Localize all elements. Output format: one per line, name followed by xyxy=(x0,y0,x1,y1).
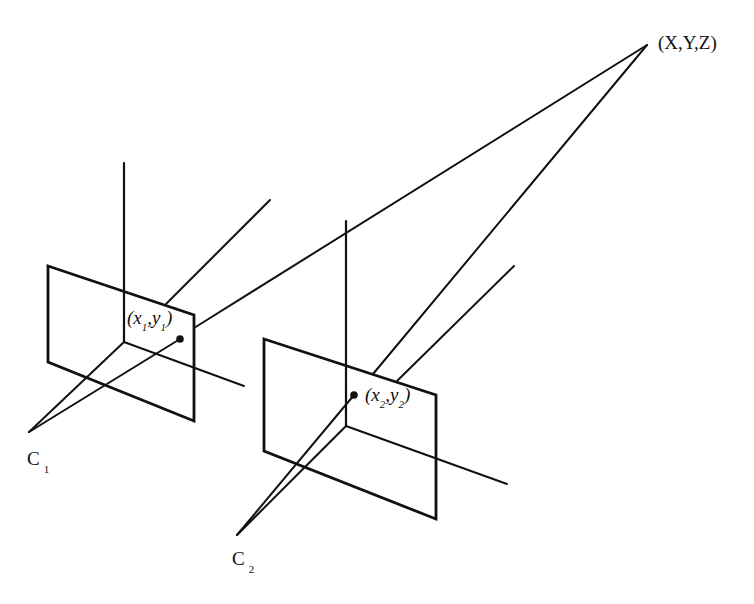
x-subscript: 1 xyxy=(142,321,148,333)
camera2-horizontal-axis xyxy=(346,426,507,484)
camera2-image-plane xyxy=(264,339,436,519)
ray-point1-to-world xyxy=(194,45,647,328)
y-subscript: 2 xyxy=(398,398,404,410)
camera2-ray-origin xyxy=(237,426,346,535)
ray-point2-to-world xyxy=(373,45,647,374)
camera1-horizontal-axis xyxy=(124,342,244,386)
c-subscript: 1 xyxy=(44,463,50,475)
camera1-ray-to-point xyxy=(29,339,180,432)
camera2-ray-to-point xyxy=(237,395,354,535)
c-subscript: 2 xyxy=(249,563,255,575)
x-subscript: 2 xyxy=(380,398,386,410)
x-symbol: x xyxy=(371,384,379,405)
c-symbol: C xyxy=(232,548,245,569)
stereo-diagram xyxy=(0,0,754,604)
image-point-2-label: (x2,y2) xyxy=(365,385,410,404)
x-symbol: x xyxy=(133,307,141,328)
image-point-1-label: (x1,y1) xyxy=(127,308,172,327)
image-point-2-dot xyxy=(350,391,358,399)
camera1-depth-axis xyxy=(166,200,270,304)
world-point-label: (X,Y,Z) xyxy=(658,33,717,52)
camera1-center-label: C1 xyxy=(27,449,49,468)
y-subscript: 1 xyxy=(160,321,166,333)
paren-close: ) xyxy=(404,384,410,405)
image-point-1-dot xyxy=(176,335,184,343)
camera2-center-label: C2 xyxy=(232,549,254,568)
paren-close: ) xyxy=(166,307,172,328)
c-symbol: C xyxy=(27,448,40,469)
